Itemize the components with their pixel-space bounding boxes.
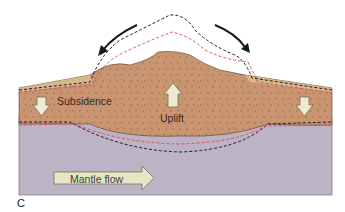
panel-label: C <box>17 197 25 209</box>
uplift-subsidence-diagram <box>0 0 345 212</box>
mantle-flow-label: Mantle flow <box>70 173 123 185</box>
subsidence-label: Subsidence <box>57 95 112 107</box>
uplift-label: Uplift <box>160 112 184 124</box>
right-curved-arrow <box>215 25 245 47</box>
left-curved-arrow <box>103 25 137 50</box>
